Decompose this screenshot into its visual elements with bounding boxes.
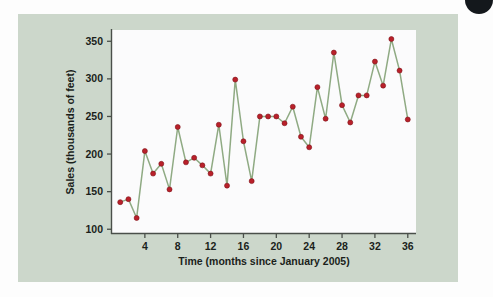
y-tick-label: 200 bbox=[85, 148, 103, 160]
chart-svg: 100150200250300350 Sales (thousands of f… bbox=[0, 0, 493, 297]
series-data-point bbox=[397, 68, 402, 73]
y-axis-title: Sales (thousands of feet) bbox=[64, 70, 76, 195]
series-data-point bbox=[208, 171, 213, 176]
x-tick-label: 12 bbox=[205, 240, 217, 252]
series-data-point bbox=[389, 37, 394, 42]
series-data-point bbox=[183, 160, 188, 165]
series-data-point bbox=[364, 93, 369, 98]
x-tick-label: 16 bbox=[238, 240, 250, 252]
y-tick-labels: 100150200250300350 bbox=[85, 35, 103, 235]
x-tick-label: 24 bbox=[303, 240, 315, 252]
series-data-point bbox=[233, 77, 238, 82]
series-data-point bbox=[126, 197, 131, 202]
y-tick-label: 100 bbox=[85, 223, 103, 235]
series-data-point bbox=[323, 116, 328, 121]
series-data-point bbox=[340, 103, 345, 108]
x-tick-label: 28 bbox=[336, 240, 348, 252]
series-data-point bbox=[348, 120, 353, 125]
series-data-point bbox=[134, 215, 139, 220]
x-axis-title: Time (months since January 2005) bbox=[178, 255, 349, 267]
y-tick-label: 300 bbox=[85, 72, 103, 84]
series-data-point bbox=[142, 149, 147, 154]
series-data-point bbox=[175, 124, 180, 129]
x-tick-label: 36 bbox=[402, 240, 414, 252]
series-data-point bbox=[249, 179, 254, 184]
y-tick-label: 250 bbox=[85, 110, 103, 122]
series-data-point bbox=[290, 104, 295, 109]
series-data-point bbox=[282, 121, 287, 126]
plot-area-background bbox=[112, 30, 416, 233]
series-data-point bbox=[274, 114, 279, 119]
series-data-point bbox=[315, 85, 320, 90]
line-chart: 100150200250300350 Sales (thousands of f… bbox=[0, 0, 493, 297]
y-axis: 100150200250300350 Sales (thousands of f… bbox=[64, 29, 112, 235]
x-tick-labels: 4812162024283236 bbox=[142, 240, 414, 252]
series-data-point bbox=[159, 161, 164, 166]
series-data-point bbox=[356, 93, 361, 98]
series-data-point bbox=[331, 50, 336, 55]
series-data-point bbox=[225, 183, 230, 188]
series-data-point bbox=[372, 59, 377, 64]
y-tick-label: 350 bbox=[85, 35, 103, 47]
series-data-point bbox=[241, 139, 246, 144]
series-data-point bbox=[167, 187, 172, 192]
x-tick-label: 8 bbox=[175, 240, 181, 252]
x-tick-label: 4 bbox=[142, 240, 148, 252]
series-data-point bbox=[192, 155, 197, 160]
series-data-point bbox=[118, 200, 123, 205]
series-data-point bbox=[151, 171, 156, 176]
series-data-point bbox=[405, 117, 410, 122]
series-data-point bbox=[200, 163, 205, 168]
series-data-point bbox=[381, 83, 386, 88]
series-data-point bbox=[307, 145, 312, 150]
y-tick-label: 150 bbox=[85, 185, 103, 197]
series-data-point bbox=[257, 114, 262, 119]
series-data-point bbox=[216, 122, 221, 127]
series-data-point bbox=[266, 114, 271, 119]
x-tick-label: 32 bbox=[369, 240, 381, 252]
x-tick-label: 20 bbox=[270, 240, 282, 252]
x-axis: 4812162024283236 Time (months since Janu… bbox=[111, 233, 416, 267]
series-data-point bbox=[298, 134, 303, 139]
